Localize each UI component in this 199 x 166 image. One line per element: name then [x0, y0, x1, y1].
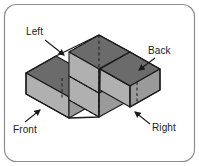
right-label-arrow: [135, 112, 150, 124]
left-label-arrow: [45, 40, 64, 55]
block-assembly: [25, 35, 160, 124]
front-label-arrow: [25, 110, 40, 122]
isometric-block-figure: [0, 0, 199, 166]
figure-container: Left Back Front Right: [0, 0, 199, 166]
